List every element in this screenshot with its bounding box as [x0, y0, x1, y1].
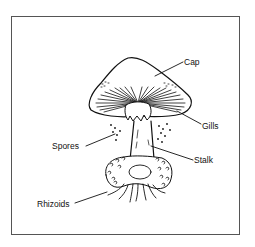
- stalk-shape: [130, 121, 154, 160]
- spores-dots: [110, 123, 171, 143]
- label-cap: Cap: [184, 58, 200, 67]
- label-stalk: Stalk: [194, 156, 213, 165]
- ring-shape: [125, 102, 151, 121]
- label-spores: Spores: [52, 142, 79, 151]
- label-rhizoids: Rhizoids: [37, 200, 70, 209]
- label-gills: Gills: [202, 122, 219, 131]
